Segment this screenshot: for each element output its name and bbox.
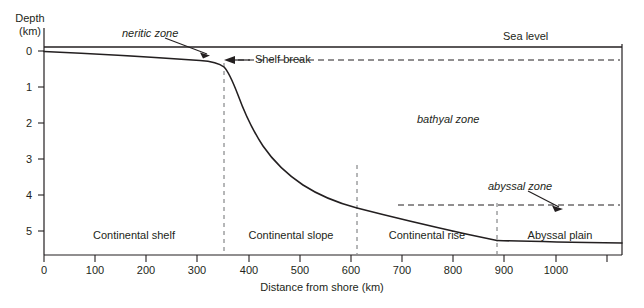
abyssal-zone-label: abyssal zone (488, 180, 552, 192)
y-axis-title-line2: (km) (19, 25, 41, 37)
y-tick-marks (38, 51, 44, 231)
y-tick-label-3: 3 (10, 153, 32, 165)
x-tick-label-300: 300 (177, 264, 217, 276)
x-tick-marks (44, 255, 607, 262)
x-tick-label-600: 600 (331, 264, 371, 276)
y-tick-label-4: 4 (10, 189, 32, 201)
neritic-zone-label: neritic zone (122, 27, 178, 39)
y-tick-label-5: 5 (10, 225, 32, 237)
zone-label-continental-rise: Continental rise (367, 229, 487, 241)
zone-label-abyssal-plain: Abyssal plain (500, 229, 620, 241)
shelf-break-label: Shelf break (255, 53, 311, 65)
y-axis-title-line1: Depth (15, 12, 44, 24)
zone-label-continental-shelf: Continental shelf (74, 229, 194, 241)
abyssal-zone-arrow (528, 191, 563, 212)
x-tick-label-900: 900 (484, 264, 524, 276)
shelf-break-arrow (224, 56, 250, 64)
x-tick-label-700: 700 (382, 264, 422, 276)
y-axis-title: Depth (km) (6, 12, 54, 37)
x-tick-label-0: 0 (24, 264, 64, 276)
figure-canvas: Depth (km) Distance from shore (km) 0 1 … (0, 0, 644, 308)
zone-label-continental-slope: Continental slope (231, 229, 351, 241)
seafloor-profile-curve (44, 52, 497, 241)
x-tick-label-800: 800 (433, 264, 473, 276)
x-tick-label-1000: 1000 (536, 264, 576, 276)
x-tick-label-500: 500 (280, 264, 320, 276)
x-tick-label-200: 200 (126, 264, 166, 276)
y-tick-label-1: 1 (10, 81, 32, 93)
profile-svg (0, 0, 644, 308)
x-tick-label-400: 400 (229, 264, 269, 276)
sea-level-label: Sea level (503, 30, 548, 42)
x-axis-title: Distance from shore (km) (222, 281, 422, 293)
y-tick-label-0: 0 (10, 45, 32, 57)
y-tick-label-2: 2 (10, 117, 32, 129)
x-tick-label-100: 100 (75, 264, 115, 276)
bathyal-zone-label: bathyal zone (417, 113, 479, 125)
neritic-zone-arrow (165, 38, 210, 59)
